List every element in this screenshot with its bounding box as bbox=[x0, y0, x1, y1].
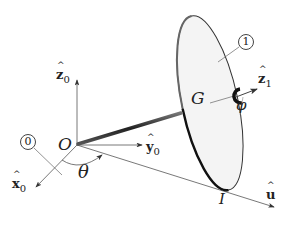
contact-point-label: I bbox=[219, 192, 225, 207]
u-label: u bbox=[266, 188, 275, 201]
z1-label: z1 bbox=[258, 72, 272, 89]
x0-label: x0 bbox=[12, 177, 26, 194]
rod bbox=[78, 113, 181, 144]
origin-label: O bbox=[58, 136, 72, 153]
y0-label: y0 bbox=[146, 140, 160, 157]
u-axis bbox=[77, 145, 274, 207]
phi-label: φ bbox=[236, 98, 247, 113]
center-label: G bbox=[191, 90, 205, 107]
body0-marker: 0 bbox=[20, 134, 36, 150]
z0-label: z0 bbox=[56, 68, 70, 85]
theta-label: θ bbox=[78, 163, 89, 181]
body1-marker: 1 bbox=[238, 34, 254, 50]
